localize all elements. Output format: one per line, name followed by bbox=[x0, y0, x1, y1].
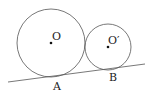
label-B: B bbox=[109, 71, 117, 84]
geometry-diagram: O O′ A B bbox=[0, 0, 160, 100]
label-A: A bbox=[52, 80, 62, 93]
tangent-line bbox=[8, 64, 145, 82]
label-O: O bbox=[52, 30, 61, 43]
label-O-prime: O′ bbox=[108, 34, 120, 47]
